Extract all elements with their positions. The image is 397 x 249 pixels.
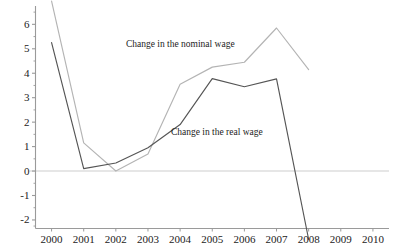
line-chart: 6543210-1-2 2000200120022003200420052006… [0,0,397,249]
chart-series-lines [52,1,309,239]
series-line-real-wage [52,43,309,240]
y-axis-label: 0 [8,166,30,177]
y-axis-label: 3 [8,92,30,103]
y-axis-label: -2 [8,214,30,225]
y-axis-label: -1 [8,190,30,201]
y-axis-label: 6 [8,19,30,30]
y-axis-label: 4 [8,68,30,79]
series-annotation-real-wage: Change in the real wage [171,128,263,138]
x-axis-label: 2010 [353,234,393,245]
chart-plot-area [0,0,397,249]
y-axis-label: 2 [8,117,30,128]
y-axis-label: 1 [8,141,30,152]
y-axis-label: 5 [8,43,30,54]
series-line-nominal-wage [52,1,309,171]
series-annotation-nominal-wage: Change in the nominal wage [126,40,235,50]
